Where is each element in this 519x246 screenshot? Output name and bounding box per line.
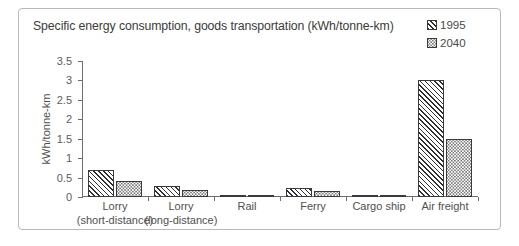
- category-label-line1-3: Ferry: [300, 200, 326, 214]
- category-label-1: Lorry(long-distance): [145, 200, 218, 227]
- bar-2040-2: [248, 195, 274, 197]
- legend-swatch-hatch-icon: [427, 20, 437, 30]
- bar-1995-1: [154, 186, 180, 197]
- y-axis-title: kWh/tonne-km: [39, 61, 53, 197]
- category-label-4: Cargo ship: [352, 200, 405, 214]
- category-label-line2-1: (long-distance): [145, 214, 218, 228]
- y-tick-label-3: 1.5: [57, 133, 72, 145]
- bar-2040-1: [182, 190, 208, 197]
- y-tick-1: 0.5: [78, 178, 83, 179]
- y-tick-label-1: 0.5: [57, 172, 72, 184]
- category-label-line2-0: (short-distance): [77, 214, 153, 228]
- bar-1995-4: [352, 195, 378, 197]
- bar-2040-4: [380, 195, 406, 197]
- y-tick-7: 3.5: [78, 61, 83, 62]
- bar-1995-2: [220, 195, 246, 197]
- category-label-line1-1: Lorry: [145, 200, 218, 214]
- bar-1995-0: [88, 170, 114, 197]
- y-tick-label-6: 3: [66, 74, 72, 86]
- legend-item-2040[interactable]: 2040: [427, 35, 491, 51]
- category-label-line1-5: Air freight: [421, 200, 468, 214]
- y-tick-0: 0: [78, 197, 83, 198]
- category-label-2: Rail: [238, 200, 257, 214]
- y-tick-3: 1.5: [78, 139, 83, 140]
- chart-figure: Specific energy consumption, goods trans…: [18, 8, 501, 230]
- chart-legend: 1995 2040: [427, 17, 491, 53]
- y-tick-6: 3: [78, 80, 83, 81]
- y-axis-title-text: kWh/tonne-km: [40, 94, 52, 165]
- bar-1995-5: [418, 80, 444, 197]
- category-label-0: Lorry(short-distance): [77, 200, 153, 227]
- legend-item-1995[interactable]: 1995: [427, 17, 491, 33]
- chart-title: Specific energy consumption, goods trans…: [33, 19, 394, 33]
- y-tick-label-7: 3.5: [57, 55, 72, 67]
- category-label-line1-0: Lorry: [77, 200, 153, 214]
- y-tick-4: 2: [78, 119, 83, 120]
- x-axis-category-labels: Lorry(short-distance)Lorry(long-distance…: [82, 200, 478, 230]
- category-label-line1-4: Cargo ship: [352, 200, 405, 214]
- y-tick-label-4: 2: [66, 113, 72, 125]
- y-tick-2: 1: [78, 158, 83, 159]
- y-tick-5: 2.5: [78, 100, 83, 101]
- plot-area: 00.511.522.533.5: [82, 61, 478, 197]
- bar-1995-3: [286, 188, 312, 197]
- legend-label-1995: 1995: [440, 19, 466, 31]
- y-tick-label-0: 0: [66, 191, 72, 203]
- category-label-line1-2: Rail: [238, 200, 257, 214]
- bar-2040-3: [314, 191, 340, 197]
- category-label-3: Ferry: [300, 200, 326, 214]
- y-tick-label-2: 1: [66, 152, 72, 164]
- x-tick-5: [478, 197, 479, 201]
- y-tick-label-5: 2.5: [57, 94, 72, 106]
- bar-2040-0: [116, 181, 142, 197]
- legend-label-2040: 2040: [440, 37, 466, 49]
- legend-swatch-dots-icon: [427, 38, 437, 48]
- bar-2040-5: [446, 139, 472, 197]
- category-label-5: Air freight: [421, 200, 468, 214]
